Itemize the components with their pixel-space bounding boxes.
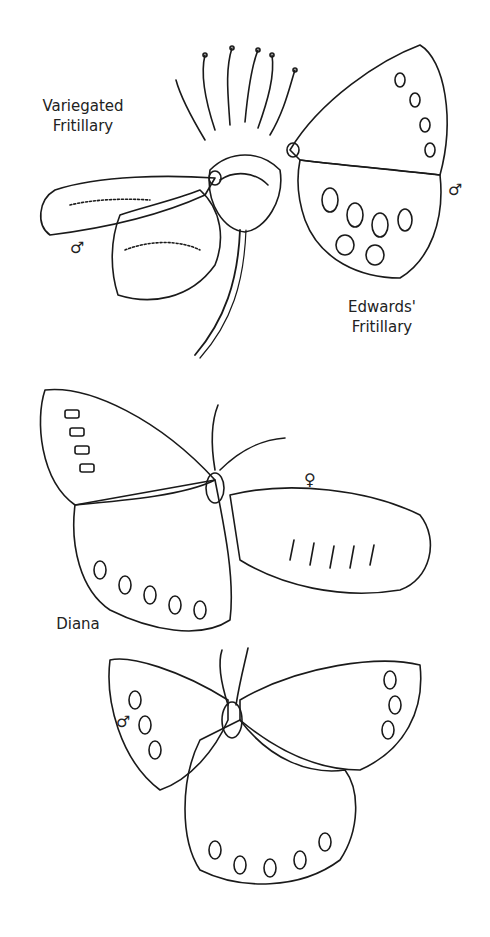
edwards-fritillary: [287, 45, 447, 278]
label-line-2: Fritillary: [28, 116, 138, 136]
flower-head: [176, 46, 297, 232]
label-diana: Diana: [48, 614, 108, 634]
label-line-2: Fritillary: [332, 317, 432, 337]
butterfly-illustration: [0, 0, 490, 937]
male-symbol-edwards: ♂: [448, 180, 462, 199]
female-symbol-diana: ♀: [304, 470, 316, 489]
variegated-fritillary: [41, 171, 221, 300]
male-symbol-diana: ♂: [116, 712, 130, 731]
male-symbol-variegated: ♂: [70, 238, 84, 257]
label-variegated-fritillary: Variegated Fritillary: [28, 96, 138, 136]
flower-stem: [195, 230, 240, 355]
label-line-1: Variegated: [28, 96, 138, 116]
diana-female: [40, 390, 430, 631]
label-edwards-fritillary: Edwards' Fritillary: [332, 297, 432, 337]
diana-male: [109, 648, 421, 884]
label-line-1: Edwards': [332, 297, 432, 317]
